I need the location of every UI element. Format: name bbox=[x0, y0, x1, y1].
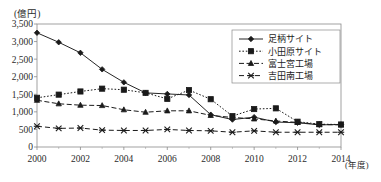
data-point-marker-square bbox=[208, 97, 213, 102]
data-point-marker-triangle bbox=[273, 118, 278, 123]
y-axis-unit-label: (億円) bbox=[14, 8, 40, 20]
data-point-marker-triangle bbox=[56, 101, 61, 106]
x-tick-label: 2004 bbox=[114, 154, 133, 164]
y-tick-label: 2,500 bbox=[12, 55, 34, 65]
data-series-3 bbox=[34, 97, 343, 127]
data-point-marker-diamond bbox=[165, 91, 170, 96]
data-point-marker-square bbox=[186, 87, 191, 92]
chart-canvas: (億円) 05001,0001,5002,0002,5003,0003,500 … bbox=[0, 0, 381, 182]
data-point-marker-square bbox=[273, 106, 278, 111]
y-tick-label: 0 bbox=[28, 142, 33, 152]
x-tick-label: 2008 bbox=[201, 154, 220, 164]
legend-label-2: 小田原サイト bbox=[268, 47, 322, 57]
x-tick-label: 2010 bbox=[245, 154, 264, 164]
y-tick-label: 3,000 bbox=[12, 37, 34, 47]
x-tick-label: 2006 bbox=[158, 154, 177, 164]
y-tick-label: 1,000 bbox=[12, 107, 34, 117]
data-point-marker-square bbox=[121, 87, 126, 92]
data-point-marker-triangle bbox=[165, 108, 170, 113]
data-point-marker-square bbox=[100, 86, 105, 91]
data-point-marker-square bbox=[143, 90, 148, 95]
x-axis-unit-label: (年度) bbox=[345, 160, 369, 170]
data-point-marker-square bbox=[165, 96, 170, 101]
x-tick-label: 2000 bbox=[28, 154, 47, 164]
legend-label-4: 吉田南工場 bbox=[268, 70, 313, 81]
data-point-marker-diamond bbox=[56, 40, 61, 45]
y-tick-label: 3,500 bbox=[12, 19, 34, 29]
x-tick-label: 2012 bbox=[288, 154, 307, 164]
data-point-marker-square bbox=[78, 89, 83, 94]
x-axis-tick-labels: 20002002200420062008201020122014 bbox=[28, 147, 351, 164]
y-tick-label: 1,500 bbox=[12, 90, 34, 100]
data-point-marker-diamond bbox=[34, 30, 39, 35]
chart-legend: 足柄サイト小田原サイト富士宮工場吉田南工場 bbox=[232, 30, 340, 83]
data-point-marker-square bbox=[252, 106, 257, 111]
y-tick-label: 500 bbox=[19, 125, 34, 135]
series-line-4 bbox=[37, 126, 341, 132]
legend-label-1: 足柄サイト bbox=[268, 33, 313, 44]
data-point-marker-square bbox=[56, 92, 61, 97]
y-tick-label: 2,000 bbox=[12, 72, 34, 82]
line-chart: (億円) 05001,0001,5002,0002,5003,0003,500 … bbox=[0, 0, 381, 182]
legend-label-3: 富士宮工場 bbox=[268, 58, 313, 69]
y-axis-tick-labels: 05001,0001,5002,0002,5003,0003,500 bbox=[12, 19, 37, 152]
x-tick-label: 2002 bbox=[71, 154, 90, 164]
data-point-marker-square bbox=[248, 49, 253, 54]
data-point-marker-diamond bbox=[121, 80, 126, 85]
